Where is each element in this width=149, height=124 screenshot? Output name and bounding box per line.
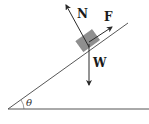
normal-force-label: N (77, 7, 88, 21)
applied-force-label: F (104, 10, 113, 24)
free-body-diagram: N F W θ (0, 0, 149, 124)
angle-label: θ (26, 97, 32, 108)
block (76, 29, 100, 51)
weight-label: W (92, 56, 107, 70)
angle-arc (21, 100, 24, 109)
